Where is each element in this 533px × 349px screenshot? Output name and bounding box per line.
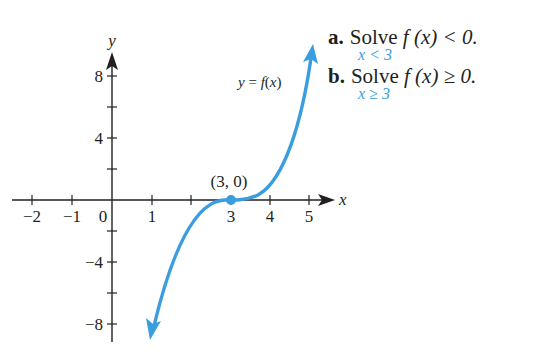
y-tick-label: 4 [95,129,104,148]
x-tick-label: 0 [99,207,108,226]
question-expression: f (x) < 0. [403,25,478,49]
question-expression: f (x) ≥ 0. [404,64,476,88]
y-tick-label: 8 [95,67,104,86]
function-curve [146,44,318,340]
question-letter: b. [328,64,345,88]
y-tick-label: −4 [85,253,104,272]
x-tick-label: 3 [227,207,236,226]
point-label: (3, 0) [211,172,248,191]
x-axis: x −2 −1 0 1 3 4 5 [12,190,347,226]
x-tick-label: 4 [266,207,275,226]
curve-label: y = f(x) [236,74,281,91]
question-letter: a. [328,25,344,49]
x-tick-label: −1 [63,207,81,226]
x-tick-label: −2 [23,207,41,226]
answer-a: x < 3 [358,47,533,63]
y-axis-label: y [106,31,116,50]
x-tick-label: 5 [305,207,314,226]
x-axis-label: x [338,190,347,209]
x-tick-label: 1 [148,207,157,226]
point-marker [226,195,236,205]
answer-b: x ≥ 3 [358,86,533,102]
y-axis: y 8 4 −4 −8 [85,31,118,342]
question-list: a.Solve f (x) < 0. x < 3 b.Solve f (x) ≥… [328,26,533,104]
y-tick-label: −8 [85,315,103,334]
